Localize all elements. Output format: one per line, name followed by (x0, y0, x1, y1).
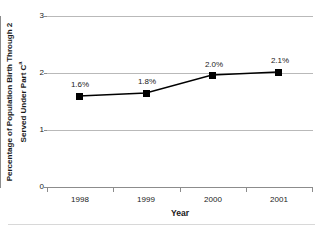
gridline-1 (47, 130, 313, 131)
y-tick-label-2: 2 (30, 68, 44, 77)
x-tick-label-1999: 1999 (126, 195, 166, 204)
bottom-divider (8, 224, 315, 225)
data-label-2000: 2.0% (192, 60, 236, 69)
x-tick-label-1998: 1998 (60, 195, 100, 204)
x-tick-mark-3 (246, 188, 247, 192)
y-axis-line (0, 16, 1, 188)
data-point-2000 (209, 72, 216, 79)
x-tick-mark-4 (312, 188, 313, 192)
x-axis-label: Year (47, 208, 313, 218)
chart-figure: Percentage of Population Birth Through 2… (0, 0, 323, 228)
x-tick-mark-1 (113, 188, 114, 192)
y-tick-label-0: 0 (30, 182, 44, 191)
plot-area (47, 16, 313, 187)
y-axis-tick-labels: 3 2 1 0 (26, 0, 44, 200)
data-label-1998: 1.6% (58, 80, 102, 89)
data-point-1998 (76, 93, 83, 100)
x-tick-mark-0 (47, 188, 48, 192)
gridline-2 (47, 73, 313, 74)
data-label-2001: 2.1% (258, 56, 302, 65)
y-axis-label-line-1: Percentage of Population Birth Through 2 (4, 23, 15, 182)
footnote-marker: a (17, 62, 23, 65)
data-point-2001 (275, 69, 282, 76)
gridline-3 (47, 16, 313, 17)
data-point-1999 (143, 90, 150, 97)
y-tick-label-1: 1 (30, 125, 44, 134)
x-tick-label-2001: 2001 (259, 195, 299, 204)
data-label-1999: 1.8% (125, 77, 169, 86)
x-tick-mark-2 (180, 188, 181, 192)
x-tick-label-2000: 2000 (193, 195, 233, 204)
y-tick-label-3: 3 (30, 11, 44, 20)
